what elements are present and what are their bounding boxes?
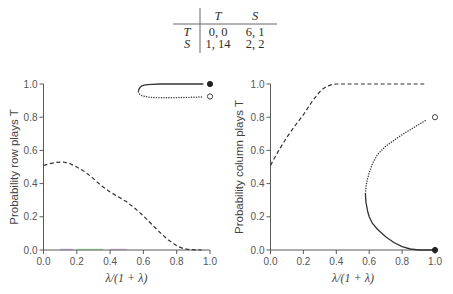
payoff-table: T S T 0, 0 6, 1 S 1, 14 2, 2	[173, 8, 277, 53]
x-tick-label: 0.8	[395, 256, 409, 267]
y-tick-label: 0.2	[251, 211, 265, 222]
y-tick-label: 0.8	[24, 112, 38, 123]
open-endpoint-marker	[432, 115, 437, 120]
x-tick-label: 0.4	[103, 256, 117, 267]
y-tick-label: 0.0	[24, 245, 38, 256]
y-tick-label: 0.6	[251, 145, 265, 156]
y-tick-label: 1.0	[24, 79, 38, 90]
filled-endpoint-marker	[207, 81, 212, 86]
y-tick-label: 1.0	[251, 79, 265, 90]
x-tick-label: 0.0	[37, 256, 51, 267]
table-cell: 1, 14	[206, 37, 232, 51]
filled-endpoint-marker	[432, 247, 437, 252]
chart-row-plays-t: Probability row plays T λ/(1 + λ) 0.00.2…	[8, 79, 217, 286]
y-axis-title: Probability row plays T	[8, 109, 20, 224]
y-tick-label: 0.4	[251, 178, 265, 189]
table-row-label: S	[184, 37, 191, 51]
plot-area: 0.00.20.40.60.81.00.00.20.40.60.81.0	[24, 79, 218, 268]
dashed-series-line	[44, 162, 202, 250]
y-tick-label: 0.0	[251, 245, 265, 256]
x-tick-label: 0.8	[170, 256, 184, 267]
solid-series-line	[365, 194, 435, 250]
solid-series-line	[138, 84, 203, 91]
open-endpoint-marker	[207, 94, 212, 99]
dotted-series-line	[365, 120, 426, 194]
x-tick-label: 0.2	[70, 256, 84, 267]
dotted-series-line	[138, 92, 201, 98]
table-col-header: S	[252, 9, 259, 23]
x-tick-label: 0.2	[296, 256, 310, 267]
dashed-series-line	[271, 84, 427, 165]
x-tick-label: 1.0	[203, 256, 217, 267]
table-row: S 1, 14 2, 2	[184, 37, 265, 51]
y-tick-label: 0.6	[24, 145, 38, 156]
y-tick-label: 0.8	[251, 112, 265, 123]
chart-column-plays-t: Probability column plays T λ/(1 + λ) 0.0…	[233, 79, 442, 286]
x-tick-label: 0.4	[329, 256, 343, 267]
figure: T S T 0, 0 6, 1 S 1, 14 2, 2 Probability…	[0, 0, 453, 294]
y-tick-label: 0.4	[24, 178, 38, 189]
plot-area: 0.00.20.40.60.81.00.00.20.40.60.81.0	[251, 79, 443, 268]
x-axis-title: λ/(1 + λ)	[331, 271, 374, 285]
table-col-header: T	[215, 9, 223, 23]
x-tick-label: 0.6	[136, 256, 150, 267]
x-tick-label: 1.0	[428, 256, 442, 267]
x-axis-title: λ/(1 + λ)	[105, 271, 148, 285]
y-axis-title: Probability column plays T	[233, 100, 245, 234]
x-tick-label: 0.0	[264, 256, 278, 267]
table-cell: 2, 2	[246, 37, 265, 51]
y-tick-label: 0.2	[24, 211, 38, 222]
x-tick-label: 0.6	[362, 256, 376, 267]
